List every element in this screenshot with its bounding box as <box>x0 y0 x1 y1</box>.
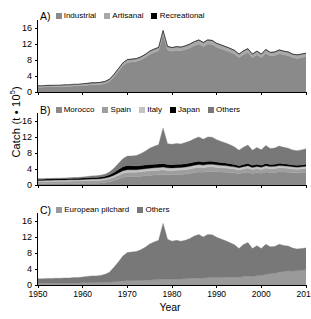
y-tick-label-a-8: 8 <box>10 56 32 65</box>
y-tick-label-a-4: 4 <box>10 72 32 81</box>
y-tick-c-4 <box>35 269 38 270</box>
y-tick-c-16 <box>35 221 38 222</box>
x-tick-c-1970 <box>127 285 128 288</box>
y-tick-c-8 <box>35 253 38 254</box>
legend-swatch-icon <box>56 13 62 19</box>
legend-label: Recreational <box>160 12 205 20</box>
legend-entry-industrial[interactable]: Industrial <box>56 12 97 20</box>
legend-swatch-icon <box>137 207 143 213</box>
x-tick-c-2000 <box>261 285 262 288</box>
legend-entry-artisanal[interactable]: Artisanal <box>104 12 143 20</box>
plot-area-a <box>38 20 306 92</box>
area-series-others <box>38 223 306 283</box>
y-axis-line-b <box>37 113 38 185</box>
x-tick-a-1960 <box>82 92 83 95</box>
y-tick-label-b-0: 0 <box>10 181 32 190</box>
y-tick-b-12 <box>35 137 38 138</box>
x-tick-b-1950 <box>38 185 39 188</box>
legend-a: A)IndustrialArtisanalRecreational <box>40 11 210 22</box>
y-tick-c-12 <box>35 237 38 238</box>
panel-tag-a: A) <box>40 11 51 22</box>
x-tick-a-1980 <box>172 92 173 95</box>
x-tick-label-1980: 1980 <box>155 290 189 299</box>
legend-label: Spain <box>111 106 131 114</box>
y-tick-label-b-8: 8 <box>10 149 32 158</box>
legend-label: Japan <box>178 106 200 114</box>
y-tick-label-c-8: 8 <box>10 249 32 258</box>
y-tick-a-4 <box>35 76 38 77</box>
x-tick-a-2010 <box>306 92 307 95</box>
y-tick-b-16 <box>35 121 38 122</box>
y-tick-label-a-16: 16 <box>10 24 32 33</box>
x-axis-title: Year <box>110 301 230 313</box>
legend-entry-morocco[interactable]: Morocco <box>56 106 95 114</box>
legend-c: C)European pilchardOthers <box>40 205 174 216</box>
x-tick-c-1990 <box>216 285 217 288</box>
legend-b: B)MoroccoSpainItalyJapanOthers <box>40 105 245 116</box>
y-tick-label-b-12: 12 <box>10 133 32 142</box>
x-tick-label-2010: 2010 <box>289 290 311 299</box>
y-tick-label-c-4: 4 <box>10 265 32 274</box>
x-tick-label-2000: 2000 <box>244 290 278 299</box>
y-tick-label-c-16: 16 <box>10 217 32 226</box>
y-tick-label-b-4: 4 <box>10 165 32 174</box>
plot-area-b <box>38 113 306 185</box>
y-axis-line-c <box>37 213 38 285</box>
x-tick-b-1960 <box>82 185 83 188</box>
legend-label: Others <box>216 106 240 114</box>
legend-swatch-icon <box>139 107 145 113</box>
legend-swatch-icon <box>170 107 176 113</box>
legend-swatch-icon <box>56 107 62 113</box>
x-tick-a-2000 <box>261 92 262 95</box>
panel-tag-c: C) <box>40 205 51 216</box>
x-tick-b-2000 <box>261 185 262 188</box>
legend-label: Italy <box>147 106 162 114</box>
legend-label: Morocco <box>64 106 95 114</box>
legend-entry-european-pilchard[interactable]: European pilchard <box>56 206 129 214</box>
legend-label: European pilchard <box>64 206 129 214</box>
area-series-industrial <box>38 34 306 92</box>
x-tick-label-1960: 1960 <box>66 290 100 299</box>
legend-entry-japan[interactable]: Japan <box>170 106 200 114</box>
legend-label: Industrial <box>64 12 96 20</box>
x-tick-a-1950 <box>38 92 39 95</box>
legend-swatch-icon <box>208 107 214 113</box>
y-tick-a-8 <box>35 60 38 61</box>
x-tick-b-1990 <box>216 185 217 188</box>
panel-c: 04812161950196019701980199020002010C)Eur… <box>38 213 306 285</box>
y-tick-b-8 <box>35 153 38 154</box>
y-tick-a-12 <box>35 44 38 45</box>
x-tick-c-1960 <box>82 285 83 288</box>
legend-entry-italy[interactable]: Italy <box>139 106 162 114</box>
panel-tag-b: B) <box>40 105 51 116</box>
legend-swatch-icon <box>102 107 108 113</box>
panel-a: 0481216A)IndustrialArtisanalRecreational <box>38 20 306 92</box>
y-tick-label-c-12: 12 <box>10 233 32 242</box>
x-tick-c-2010 <box>306 285 307 288</box>
x-tick-b-2010 <box>306 185 307 188</box>
x-tick-a-1970 <box>127 92 128 95</box>
legend-entry-spain[interactable]: Spain <box>102 106 131 114</box>
x-tick-label-1950: 1950 <box>21 290 55 299</box>
x-tick-c-1950 <box>38 285 39 288</box>
x-tick-label-1990: 1990 <box>200 290 234 299</box>
y-tick-label-a-12: 12 <box>10 40 32 49</box>
y-tick-b-4 <box>35 169 38 170</box>
x-tick-b-1970 <box>127 185 128 188</box>
legend-label: Others <box>145 206 169 214</box>
y-tick-label-a-0: 0 <box>10 88 32 97</box>
y-axis-line-a <box>37 20 38 92</box>
figure-root: Catch (t • 105) 0481216A)IndustrialArtis… <box>0 0 311 319</box>
plot-area-c <box>38 213 306 285</box>
y-tick-label-b-16: 16 <box>10 117 32 126</box>
x-tick-c-1980 <box>172 285 173 288</box>
x-tick-b-1980 <box>172 185 173 188</box>
legend-entry-recreational[interactable]: Recreational <box>151 12 204 20</box>
x-tick-a-1990 <box>216 92 217 95</box>
y-tick-a-16 <box>35 28 38 29</box>
legend-entry-others[interactable]: Others <box>137 206 169 214</box>
legend-swatch-icon <box>56 207 62 213</box>
legend-entry-others[interactable]: Others <box>208 106 240 114</box>
legend-label: Artisanal <box>112 12 143 20</box>
panel-b: 0481216B)MoroccoSpainItalyJapanOthers <box>38 113 306 185</box>
